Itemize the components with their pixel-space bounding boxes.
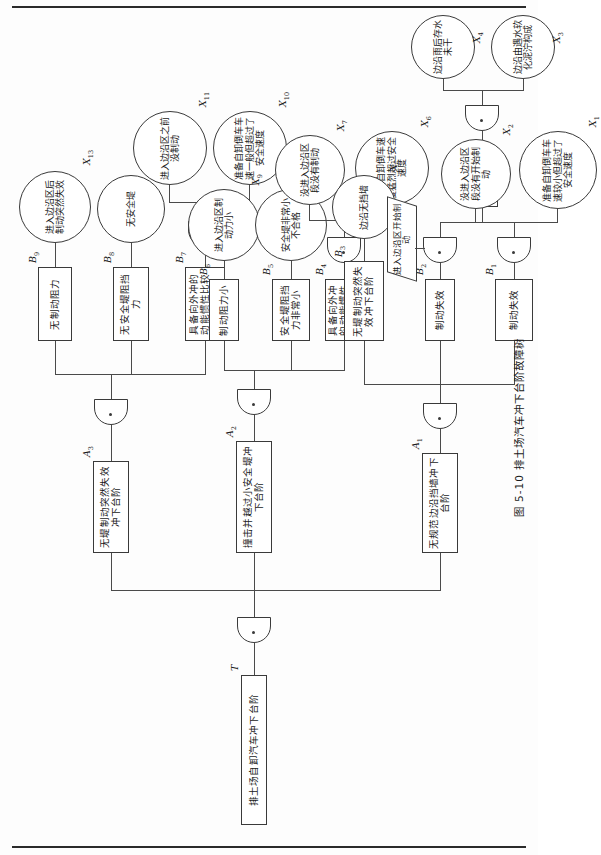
edge-B2gate-bus xyxy=(440,223,441,237)
edge-topgate-bus xyxy=(254,591,255,617)
gate-A2-or xyxy=(237,389,271,415)
edge-C2-X4 xyxy=(443,79,444,91)
edge-A3gate-bus xyxy=(111,375,112,399)
tag-X5: X5 xyxy=(388,160,402,171)
gate-B2-and-body xyxy=(423,237,457,263)
node-X7-label: 没进入边沿区段没有制动 xyxy=(300,140,321,200)
node-A3-label: 无堤制动突然失效冲下台阶 xyxy=(100,464,122,550)
tag-B6: B6 xyxy=(198,263,212,274)
edge-A3-B9 xyxy=(55,341,56,375)
edge-A2-B6 xyxy=(224,341,225,371)
node-X11-label: 进入边沿区之前没制动 xyxy=(160,116,181,180)
tag-X1: X1 xyxy=(587,116,601,127)
edge-A3-B8 xyxy=(131,341,132,375)
tag-A2: A2 xyxy=(224,425,238,436)
tag-X9: X9 xyxy=(250,174,264,185)
node-B6: 制动阻力小 xyxy=(209,279,239,341)
tag-B3: B3 xyxy=(333,245,347,256)
edge-A3-B7 xyxy=(205,341,206,375)
edge-B1-X1 xyxy=(557,209,558,223)
node-A1: 无规范边沿挡墙冲下台阶 xyxy=(422,453,458,553)
edge-B9-X13 xyxy=(55,243,56,267)
tag-T: T xyxy=(229,664,240,670)
node-X13: 进入边沿区后制动突然失效 xyxy=(19,171,91,243)
edge-bus-A2 xyxy=(254,553,255,591)
tag-B4: B4 xyxy=(314,263,328,274)
edge-B4-X7 xyxy=(309,205,310,221)
node-B5: 安全堤阻挡力非常小 xyxy=(272,279,310,341)
node-X12-label: 无安全堤 xyxy=(126,191,136,227)
edge-A1-B3 xyxy=(364,341,365,385)
bus-A1 xyxy=(364,383,514,384)
gate-C2-and-body xyxy=(465,105,499,131)
tag-X10: X10 xyxy=(277,91,291,106)
gate-A1-or xyxy=(423,403,457,429)
tag-X4: X4 xyxy=(471,32,485,43)
bus-A2 xyxy=(224,369,344,370)
edge-C2gate-bus xyxy=(482,91,483,105)
edge-B2-C2 xyxy=(482,207,483,223)
edge-A2-gate xyxy=(254,415,255,441)
edge-A1gate-bus xyxy=(440,385,441,403)
node-B8-label: 无安全堤阻挡力 xyxy=(120,270,142,338)
node-X1-label: 准备自卸倒车车速较小但超过了安全速度 xyxy=(542,136,573,204)
node-T-label: 排土场自卸汽车冲下台阶 xyxy=(249,693,260,805)
condition-C1-label: 进入边沿区开始制动 xyxy=(393,202,412,276)
node-X9-label: 进入边沿区制动力小 xyxy=(214,194,235,256)
node-X12: 无安全堤 xyxy=(97,175,165,243)
edge-A2-B4 xyxy=(344,341,345,371)
gate-B2-and xyxy=(423,237,457,263)
tag-X3: X3 xyxy=(551,32,565,43)
node-B2: 制动失效 xyxy=(425,279,455,341)
node-X9: 进入边沿区制动力小 xyxy=(188,189,260,261)
node-X13-label: 进入边沿区后制动突然失效 xyxy=(45,176,66,238)
gate-A3-or xyxy=(94,399,128,425)
tag-B8: B8 xyxy=(102,251,116,262)
edge-A1-gate xyxy=(440,429,441,453)
edge-A2-B5 xyxy=(291,341,292,371)
node-X10-label: 准备自卸倒车车速一般但超过了安全速度 xyxy=(234,116,265,180)
edge-A1-B2 xyxy=(440,341,441,385)
node-T: 排土场自卸汽车冲下台阶 xyxy=(241,675,267,825)
edge-bus-A3 xyxy=(111,553,112,591)
node-A2-label: 撞击并越过小安全堤冲下台阶 xyxy=(243,444,265,550)
bus-top xyxy=(111,589,441,590)
tag-X7: X7 xyxy=(335,120,349,131)
edge-A3-gate xyxy=(111,425,112,461)
edge-B6-X9 xyxy=(224,261,225,279)
node-A2: 撞击并越过小安全堤冲下台阶 xyxy=(236,441,272,553)
node-X4-label: 边沿雨后存水未干 xyxy=(433,20,454,74)
edge-B8-X12 xyxy=(131,243,132,267)
node-B6-label: 制动阻力小 xyxy=(219,284,230,335)
tag-A1: A1 xyxy=(410,437,424,448)
tag-X13: X13 xyxy=(81,149,95,164)
gate-A1-or-body xyxy=(423,403,457,429)
tag-B7: B7 xyxy=(174,251,188,262)
edge-B7-X11 xyxy=(169,185,170,203)
gate-top-or-body xyxy=(237,617,271,643)
node-X2-label: 没进入边沿区段没有开始制动 xyxy=(460,144,491,204)
figure-caption: 图 5-10 排土场汽车冲下台阶故障树 xyxy=(506,0,532,855)
gate-A3-or-body xyxy=(94,399,128,425)
node-B9: 无制动阻力 xyxy=(38,267,72,341)
gate-top-or xyxy=(237,617,271,643)
tag-A3: A3 xyxy=(81,445,95,456)
node-X4: 边沿雨后存水未干 xyxy=(411,15,475,79)
edge-A2gate-bus xyxy=(254,371,255,389)
bus-A3 xyxy=(55,373,205,374)
tag-X6: X6 xyxy=(419,116,433,127)
gate-C2-and xyxy=(465,105,499,131)
node-A3: 无堤制动突然失效冲下台阶 xyxy=(93,461,129,553)
edge-B5-X8 xyxy=(291,261,292,279)
edge-B2-gate xyxy=(440,263,441,279)
node-X11: 进入边沿区之前没制动 xyxy=(133,111,207,185)
node-A1-label: 无规范边沿挡墙冲下台阶 xyxy=(429,456,451,550)
edge-C1-gate xyxy=(415,247,425,248)
node-B2-label: 制动失效 xyxy=(435,289,446,330)
node-B5-label: 安全堤阻挡力非常小 xyxy=(280,282,302,338)
gate-A2-or-body xyxy=(237,389,271,415)
figure-caption-text: 图 5-10 排土场汽车冲下台阶故障树 xyxy=(512,338,527,518)
tag-B1: B1 xyxy=(484,263,498,274)
